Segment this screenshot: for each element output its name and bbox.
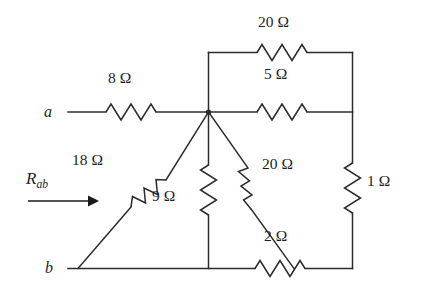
resistor-9-symbol xyxy=(201,165,217,215)
resistor-2-label: 2 Ω xyxy=(264,228,287,244)
resistor-20-top-symbol xyxy=(257,45,307,61)
resistor-1-label: 1 Ω xyxy=(367,173,390,189)
rab-symbol: R xyxy=(26,169,36,188)
wire-20diag-upper xyxy=(209,112,249,168)
rab-subscript: ab xyxy=(36,178,48,191)
resistor-20-diag-label: 20 Ω xyxy=(262,156,293,172)
resistor-1-symbol xyxy=(345,163,361,213)
rab-label: Rab xyxy=(26,170,48,191)
resistor-8-label: 8 Ω xyxy=(108,70,131,86)
resistor-20-diag-symbol xyxy=(239,168,253,209)
resistor-20-top-label: 20 Ω xyxy=(258,14,289,30)
resistor-2-symbol xyxy=(255,261,305,277)
resistor-8-symbol xyxy=(106,104,156,120)
resistor-18-label: 18 Ω xyxy=(72,152,103,168)
rab-arrow-head xyxy=(88,196,99,207)
resistor-9-label: 9 Ω xyxy=(152,188,175,204)
circuit-diagram: a b Rab 8 Ω 20 Ω 5 Ω 18 Ω 9 Ω 20 Ω 1 Ω 2… xyxy=(0,0,423,293)
resistor-5-label: 5 Ω xyxy=(264,66,287,82)
terminal-label-a: a xyxy=(44,104,52,120)
center-node-junction xyxy=(206,109,211,114)
wire-18-lower-diagonal xyxy=(78,207,131,269)
circuit-schematic-canvas xyxy=(0,0,423,293)
resistor-5-symbol xyxy=(257,104,307,120)
terminal-label-b: b xyxy=(45,260,53,276)
